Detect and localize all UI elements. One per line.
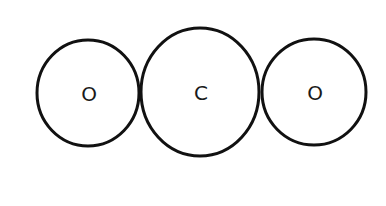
atom-carbon-center: C [141,28,259,156]
atom-oxygen-right: O [262,39,366,145]
atom-oxygen-left: O [37,40,139,146]
atom-label: C [194,81,208,105]
atom-label: O [81,82,97,106]
molecule-diagram: O C O [0,0,386,206]
atom-label: O [307,81,323,105]
